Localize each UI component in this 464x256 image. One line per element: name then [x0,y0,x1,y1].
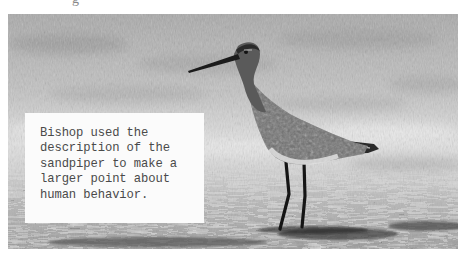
caption-text: Bishop used the description of the sandp… [40,126,204,203]
cropped-text-fragment: g [72,0,79,7]
caption-box: Bishop used the description of the sandp… [25,113,204,223]
